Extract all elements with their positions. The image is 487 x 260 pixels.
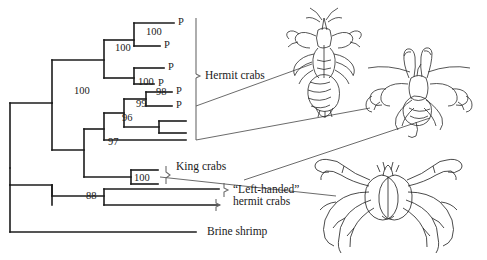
clade-label-brine-shrimp: Brine shrimp bbox=[207, 225, 267, 237]
tip-label-p-4: P bbox=[158, 77, 164, 88]
bracket-hermit-crabs bbox=[196, 18, 200, 140]
tip-label-p-1: P bbox=[178, 16, 184, 27]
clade-label-left-handed-hermit-crabs: “Left-handed” hermit crabs bbox=[233, 183, 299, 207]
bootstrap-value-96: 96 bbox=[122, 112, 133, 123]
tip-label-p-6: P bbox=[176, 99, 182, 110]
bootstrap-value-100-second-pair: 100 bbox=[138, 76, 154, 87]
bootstrap-value-100-upper-clade: 100 bbox=[115, 42, 131, 53]
illustration-king-crab bbox=[315, 159, 462, 253]
bootstrap-value-88: 88 bbox=[86, 190, 97, 201]
bracket-king-crabs bbox=[166, 166, 170, 184]
bootstrap-value-99: 99 bbox=[136, 98, 147, 109]
tip-label-p-5: P bbox=[176, 85, 182, 96]
tip-label-p-2: P bbox=[164, 39, 170, 50]
bracket-left-handed-hermit-crabs bbox=[216, 183, 228, 211]
tree-branches bbox=[10, 23, 219, 232]
clade-label-hermit-crabs: Hermit crabs bbox=[205, 69, 265, 81]
clade-label-left-handed-line-1: “Left-handed” bbox=[233, 183, 299, 195]
figure-canvas: 100 100 100 100 98 99 96 97 100 88 P P P… bbox=[0, 0, 487, 260]
illustration-hermit-crab-top bbox=[287, 8, 362, 118]
illustration-hermit-crab-in-shell bbox=[366, 48, 472, 138]
phylogeny-svg bbox=[0, 0, 487, 260]
bootstrap-value-100-top-pair: 100 bbox=[146, 26, 162, 37]
tip-label-p-3: P bbox=[168, 61, 174, 72]
bootstrap-value-100-root: 100 bbox=[74, 85, 90, 96]
bootstrap-value-100-king-crabs: 100 bbox=[134, 172, 150, 183]
bootstrap-value-97: 97 bbox=[108, 136, 119, 147]
clade-label-king-crabs: King crabs bbox=[176, 160, 226, 172]
leader-lines bbox=[160, 64, 430, 196]
clade-label-left-handed-line-2: hermit crabs bbox=[233, 195, 299, 207]
